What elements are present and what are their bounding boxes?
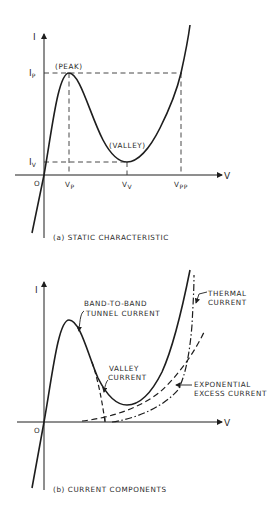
- caption-b: (b) CURRENT COMPONENTS: [53, 485, 167, 494]
- caption-a: (a) STATIC CHARACTERISTIC: [53, 233, 169, 242]
- iv-curve: [32, 25, 190, 233]
- peak-label: (PEAK): [55, 62, 83, 71]
- diagram-current-components: I V O BAND-TO-BAND TUNNEL CURRENT VALLEY…: [17, 270, 267, 494]
- thermal-current-label: THERMAL: [207, 289, 247, 298]
- vp-label: VP: [65, 180, 75, 190]
- iv-label: IV: [29, 157, 37, 168]
- ip-label: IP: [29, 68, 36, 79]
- diagram-static-characteristic: I V O (PEAK) (VALLEY) IP IV VP VV VPP (a…: [15, 25, 231, 242]
- thermal-current-label-2: CURRENT: [208, 298, 247, 307]
- tunnel-diode-figure: I V O (PEAK) (VALLEY) IP IV VP VV VPP (a…: [0, 0, 274, 523]
- excess-current-label: EXPONENTIAL: [194, 380, 251, 389]
- vpp-label: VPP: [174, 180, 188, 190]
- origin-label: O: [34, 179, 40, 188]
- valley-label: (VALLEY): [109, 141, 146, 150]
- x-axis-label: V: [224, 171, 231, 181]
- x-axis-label: V: [224, 418, 231, 428]
- tunnel-current-label: BAND-TO-BAND: [84, 299, 147, 308]
- thermal-current-curve: [112, 275, 194, 422]
- valley-current-label-2: CURRENT: [108, 373, 147, 382]
- vv-label: VV: [122, 180, 133, 190]
- tunnel-current-label-2: TUNNEL CURRENT: [85, 309, 160, 318]
- tunnel-current-curve: [92, 362, 105, 422]
- excess-current-label-2: EXCESS CURRENT: [194, 389, 267, 398]
- y-axis-label: I: [35, 285, 38, 295]
- y-axis-label: I: [33, 32, 36, 42]
- valley-current-label: VALLEY: [109, 364, 139, 373]
- origin-label: O: [34, 426, 40, 435]
